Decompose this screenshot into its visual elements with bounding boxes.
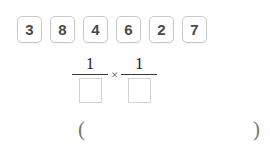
number-tile-label: 8 xyxy=(58,22,66,37)
math-exercise-canvas: 3 8 4 6 2 7 1 × 1 xyxy=(0,0,270,152)
denominator-drop-box-first[interactable] xyxy=(79,78,102,103)
number-tile[interactable]: 8 xyxy=(50,16,75,43)
fraction-numerator: 1 xyxy=(86,56,94,73)
multiplication-sign: × xyxy=(110,68,119,81)
number-tile[interactable]: 2 xyxy=(149,16,174,43)
number-tile-label: 3 xyxy=(25,22,33,37)
number-tile-label: 2 xyxy=(157,22,165,37)
open-paren: ( xyxy=(78,119,85,140)
answer-input-slot[interactable] xyxy=(85,121,253,139)
number-tile[interactable]: 3 xyxy=(17,16,42,43)
fraction-numerator: 1 xyxy=(135,56,143,73)
fraction-bar xyxy=(72,74,108,75)
fraction-first: 1 xyxy=(72,56,108,103)
number-tile[interactable]: 6 xyxy=(116,16,141,43)
denominator-drop-box-second[interactable] xyxy=(128,78,151,103)
number-tile-label: 4 xyxy=(91,22,99,37)
number-tile-label: 7 xyxy=(190,22,198,37)
number-tile[interactable]: 7 xyxy=(182,16,207,43)
answer-row: ( ) xyxy=(78,119,260,140)
fraction-second: 1 xyxy=(121,56,157,103)
number-tile-tray: 3 8 4 6 2 7 xyxy=(17,16,207,43)
number-tile[interactable]: 4 xyxy=(83,16,108,43)
close-paren: ) xyxy=(253,119,260,140)
fraction-bar xyxy=(121,74,157,75)
fraction-expression: 1 × 1 xyxy=(72,56,157,103)
number-tile-label: 6 xyxy=(124,22,132,37)
